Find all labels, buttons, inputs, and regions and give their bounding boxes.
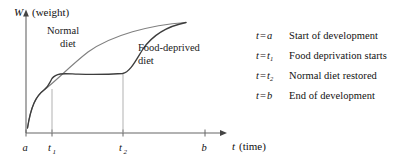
normal-diet-annotation: Normal diet — [47, 25, 79, 49]
legend-panel: t=a Start of development t=t1 Food depri… — [256, 30, 394, 110]
legend-key-t2: t=t2 — [256, 70, 289, 81]
legend-key-b-equals: = — [259, 90, 267, 101]
tick-label-t1-group: t 1 — [48, 142, 56, 156]
food-deprived-label-line2: diet — [138, 55, 154, 66]
y-axis-symbol: W — [14, 6, 24, 18]
tick-label-t2-group: t 2 — [119, 142, 128, 156]
x-axis-label: (time) — [239, 140, 266, 153]
legend-desc-a: Start of development — [289, 30, 378, 41]
x-axis-arrowhead — [220, 130, 227, 136]
legend-key-b-value: b — [267, 90, 272, 101]
tick-label-t1: t — [48, 142, 52, 153]
legend-key-t1-subscript: 1 — [270, 55, 273, 62]
legend-desc-t2: Normal diet restored — [289, 70, 377, 81]
normal-diet-label-line2: diet — [60, 38, 76, 49]
tick-label-t2-subscript: 2 — [124, 148, 128, 156]
tick-label-t2: t — [119, 142, 123, 153]
y-axis — [23, 10, 29, 134]
legend-row-a: t=a Start of development — [256, 30, 394, 50]
curve-normal-diet — [28, 23, 187, 129]
legend-desc-t1: Food deprivation starts — [289, 50, 387, 61]
legend-key-t1-equals: = — [259, 50, 267, 61]
legend-key-t2-equals: = — [259, 70, 267, 81]
tick-label-b: b — [202, 142, 207, 153]
legend-key-a-equals: = — [259, 30, 267, 41]
legend-row-t2: t=t2 Normal diet restored — [256, 70, 394, 90]
legend-key-a-value: a — [267, 30, 272, 41]
food-deprived-annotation: Food-deprived diet — [138, 42, 201, 66]
y-axis-label: (weight) — [32, 6, 70, 19]
food-deprived-label-line1: Food-deprived — [138, 42, 201, 53]
normal-diet-label-line1: Normal — [47, 25, 79, 36]
legend-key-t2-subscript: 2 — [270, 75, 273, 82]
legend-row-b: t=b End of development — [256, 90, 394, 110]
legend-key-a: t=a — [256, 30, 289, 41]
legend-row-t1: t=t1 Food deprivation starts — [256, 50, 394, 70]
legend-key-b: t=b — [256, 90, 289, 101]
x-axis-symbol: t — [232, 140, 236, 152]
legend-key-t1: t=t1 — [256, 50, 289, 61]
legend-desc-b: End of development — [289, 90, 375, 101]
tick-label-a: a — [23, 142, 28, 153]
tick-label-t1-subscript: 1 — [53, 148, 57, 156]
curve-food-deprived-diet — [28, 23, 187, 129]
weight-vs-time-figure: W (weight) t (time) a t 1 t 2 b — [0, 0, 394, 159]
x-axis — [26, 130, 227, 136]
y-axis-arrowhead — [23, 10, 29, 17]
